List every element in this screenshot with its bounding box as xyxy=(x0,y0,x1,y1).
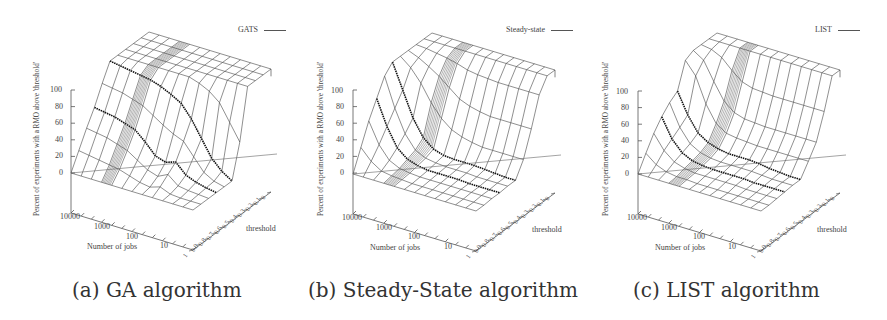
x-tick-10000: 10000 xyxy=(627,213,647,222)
legend-line-swatch xyxy=(838,30,860,31)
legend-label: GATS xyxy=(238,25,258,34)
z-tick-100: 100 xyxy=(331,86,343,95)
z-axis-label: Percent of experiments with a RMO above … xyxy=(317,62,325,216)
z-tick-20: 20 xyxy=(621,152,629,161)
legend-list: LIST xyxy=(815,25,860,34)
svg-text:1: 1 xyxy=(464,253,472,260)
legend-label: LIST xyxy=(815,25,832,34)
z-tick-100: 100 xyxy=(50,85,62,94)
x-tick-10: 10 xyxy=(160,241,168,250)
x-axis-label: Number of jobs xyxy=(370,243,420,252)
x-tick-100: 100 xyxy=(408,232,420,241)
x-tick-100: 100 xyxy=(126,232,138,241)
surface-wireframe xyxy=(353,33,555,211)
z-tick-20: 20 xyxy=(336,152,344,161)
z-tick-40: 40 xyxy=(336,135,344,144)
z-axis-label: Percent of experiments with a RMO above … xyxy=(33,62,41,216)
z-tick-80: 80 xyxy=(621,103,629,112)
x-tick-1000: 1000 xyxy=(376,223,392,232)
panel-list: 00.10.20.30.40.50.60.70.80.91 LIST Perce… xyxy=(585,0,881,320)
legend-steady-state: Steady-state xyxy=(506,25,573,34)
x-axis-label: Number of jobs xyxy=(87,242,137,251)
caption-steady-state: (b) Steady-State algorithm xyxy=(308,278,578,302)
legend-label: Steady-state xyxy=(506,25,545,34)
legend-line-swatch xyxy=(264,30,286,31)
caption-ga: (a) GA algorithm xyxy=(72,278,242,302)
svg-text:1: 1 xyxy=(749,253,757,260)
z-tick-20: 20 xyxy=(55,151,63,160)
surface-wireframe xyxy=(638,33,840,211)
z-tick-0: 0 xyxy=(59,168,63,177)
z-axis-label: Percent of experiments with a RMO above … xyxy=(602,62,610,216)
z-tick-100: 100 xyxy=(616,87,628,96)
y-axis-label: threshold xyxy=(817,225,847,234)
x-tick-100: 100 xyxy=(693,232,705,241)
x-axis-label: Number of jobs xyxy=(655,243,705,252)
y-axis-label: threshold xyxy=(532,225,562,234)
x-tick-1000: 1000 xyxy=(661,223,677,232)
x-tick-1000: 1000 xyxy=(94,222,110,231)
panel-steady-state: 00.10.20.30.40.50.60.70.80.91 Steady-sta… xyxy=(290,0,586,320)
z-tick-40: 40 xyxy=(55,135,63,144)
y-axis-label: threshold xyxy=(246,224,276,233)
z-tick-0: 0 xyxy=(625,169,629,178)
z-tick-0: 0 xyxy=(340,168,344,177)
surface-wireframe xyxy=(71,32,271,210)
caption-list: (c) LIST algorithm xyxy=(633,278,820,302)
z-tick-40: 40 xyxy=(621,136,629,145)
x-tick-10: 10 xyxy=(444,242,452,251)
z-tick-60: 60 xyxy=(621,120,629,129)
z-tick-80: 80 xyxy=(55,102,63,111)
svg-text:1: 1 xyxy=(181,252,189,259)
z-tick-80: 80 xyxy=(336,102,344,111)
x-tick-10: 10 xyxy=(728,242,736,251)
panel-ga: 00.10.20.30.40.50.60.70.80.91 GATS Perce… xyxy=(0,0,296,320)
x-tick-10000: 10000 xyxy=(342,213,362,222)
z-tick-60: 60 xyxy=(336,119,344,128)
legend-line-swatch xyxy=(551,30,573,31)
legend-ga: GATS xyxy=(238,25,286,34)
z-tick-60: 60 xyxy=(55,118,63,127)
x-tick-10000: 10000 xyxy=(60,212,80,221)
